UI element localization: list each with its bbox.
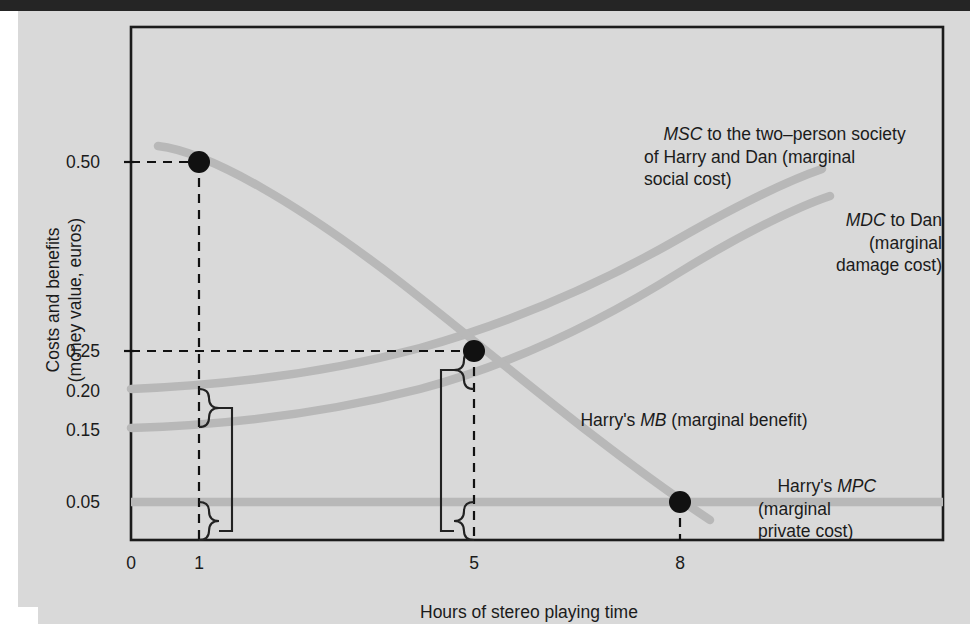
x-tick-label-1: 1 [179,553,219,574]
x-tick-label-8: 8 [660,553,700,574]
mb-annotation: Harry's MB (marginal benefit) [561,386,807,454]
msc-annotation-symbol: MSC [663,124,702,144]
y-tick-label-015: 0.15 [28,420,100,441]
brace-connector-x5 [441,370,454,531]
mdc-annotation: MDC to Dan(marginaldamage cost) [760,186,942,300]
y-tick-label-005: 0.05 [28,492,100,513]
x-tick-label-0: 0 [111,553,151,574]
y-tick-label-050: 0.50 [28,152,100,173]
mpc-annotation: Harry's MPC(marginalprivate cost) [758,452,876,566]
brace-mpc-at-5 [454,502,474,540]
curve-mb [158,146,710,520]
figure-page: 0.50 0.25 0.20 0.15 0.05 0 1 5 8 Costs a… [0,0,970,641]
mb-annotation-owner: Harry's [580,410,640,430]
mpc-annotation-owner: Harry's [777,476,837,496]
mdc-annotation-symbol: MDC [846,210,886,230]
x-axis-title: Hours of stereo playing time [420,602,638,623]
brace-group-x1 [199,389,232,540]
guide-lines [131,162,680,540]
marker-dots [188,151,691,513]
marker-dot-5-025 [463,340,485,362]
x-tick-label-5: 5 [454,553,494,574]
mb-annotation-symbol: MB [640,410,666,430]
mb-annotation-text: (marginal benefit) [666,410,807,430]
brace-mpc-at-1 [199,502,219,540]
marker-dot-1-050 [188,151,210,173]
y-tick-marks [124,162,134,351]
mpc-annotation-text: (marginalprivate cost) [758,499,853,542]
y-axis-title-line2: (money value, euros) [65,218,85,382]
y-axis-title: Costs and benefits(money value, euros) [42,180,87,420]
mpc-annotation-symbol: MPC [837,476,876,496]
marker-dot-8-005 [669,491,691,513]
y-axis-title-line1: Costs and benefits [43,228,63,373]
